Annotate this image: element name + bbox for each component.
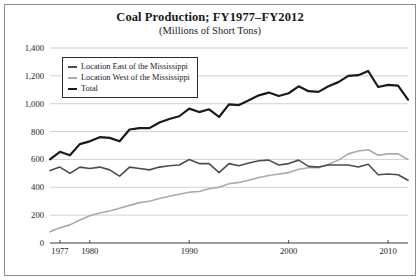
x-axis-tick-label: 2010 (380, 246, 397, 256)
y-axis-tick-label: 1,200 (25, 71, 44, 81)
y-axis-tick-label: 200 (31, 210, 44, 220)
y-axis-tick-label: 400 (31, 182, 44, 192)
y-axis-tick-label: 0 (40, 238, 44, 248)
y-axis-tick-labels: 02004006008001,0001,2001,400 (25, 43, 44, 248)
x-axis-tick-label: 2000 (280, 246, 297, 256)
legend-color-swatch (68, 77, 77, 79)
chart-figure: Coal Production; FY1977–FY2012 (Millions… (0, 0, 420, 280)
y-axis-tick-label: 1,400 (25, 43, 44, 53)
x-axis-tick-label: 1977 (51, 246, 69, 256)
legend-item: Total (68, 83, 190, 94)
series-line (50, 159, 408, 180)
x-axis-tick-labels: 19771980199020002010 (51, 246, 396, 256)
y-axis-tick-label: 1,000 (25, 99, 44, 109)
y-axis-tick-label: 600 (31, 154, 44, 164)
legend-item-label: Total (81, 83, 98, 94)
legend-color-swatch (68, 66, 77, 68)
legend-item-label: Location East of the Mississippi (81, 61, 188, 72)
series-line (50, 150, 408, 232)
legend-color-swatch (68, 88, 77, 90)
plot-area: 02004006008001,0001,2001,400 19771980199… (0, 0, 420, 280)
y-axis-tick-label: 800 (31, 127, 44, 137)
x-axis-tick-label: 1990 (181, 246, 198, 256)
legend-item-label: Location West of the Mississippi (81, 72, 190, 83)
legend-item: Location West of the Mississippi (68, 72, 190, 83)
legend-item: Location East of the Mississippi (68, 61, 190, 72)
x-axis-tick-label: 1980 (81, 246, 98, 256)
chart-legend: Location East of the MississippiLocation… (62, 57, 198, 98)
